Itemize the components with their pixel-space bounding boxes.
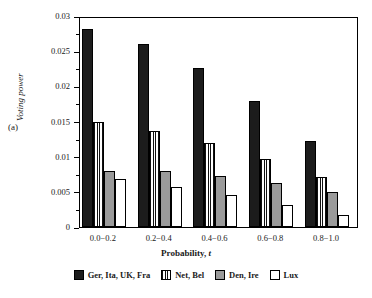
bar-gray: [271, 183, 282, 227]
x-axis-tick-label: 0.6−0.8: [240, 233, 300, 243]
x-axis-tick-label: 0.4−0.6: [185, 233, 245, 243]
y-axis-tick-label: 0.025: [0, 46, 70, 56]
legend-item: Net, Bel: [161, 270, 204, 280]
bar-striped: [93, 122, 104, 228]
legend-swatch-black: [74, 270, 84, 280]
bar-gray: [160, 171, 171, 227]
y-axis-tick-label: 0.005: [0, 187, 70, 197]
bar-striped: [149, 131, 160, 227]
legend-label: Lux: [284, 270, 299, 280]
y-axis-tick-mark: [74, 228, 79, 229]
bar-white: [171, 187, 182, 227]
bar-striped: [204, 143, 215, 227]
x-axis-tick-label: 0.0−0.2: [73, 233, 133, 243]
x-axis-tick-label: 0.8−1.0: [296, 233, 356, 243]
figure-panel-a: (a) Voting power 00.0050.010.0150.020.02…: [0, 0, 372, 298]
bar-black: [82, 29, 93, 227]
y-axis-minor-tick: [76, 34, 79, 35]
legend-item: Lux: [270, 270, 299, 280]
y-axis-tick-mark: [74, 52, 79, 53]
y-axis-tick-label: 0.03: [0, 11, 70, 21]
legend-label: Net, Bel: [175, 270, 204, 280]
plot-area: [79, 17, 358, 228]
legend-item: Ger, Ita, UK, Fra: [74, 270, 150, 280]
x-axis-title-symbol: t: [208, 248, 211, 258]
y-axis-minor-tick: [76, 104, 79, 105]
bar-black: [138, 44, 149, 227]
legend-label: Ger, Ita, UK, Fra: [88, 270, 150, 280]
bar-white: [226, 195, 237, 227]
bar-group: [192, 18, 248, 227]
y-axis-tick-mark: [74, 87, 79, 88]
y-axis-tick-label: 0.01: [0, 152, 70, 162]
bar-striped: [260, 159, 271, 227]
bar-black: [305, 141, 316, 227]
bar-white: [115, 179, 126, 227]
bar-black: [249, 101, 260, 227]
bar-group: [80, 18, 136, 227]
y-axis-tick-mark: [74, 17, 79, 18]
bar-black: [193, 68, 204, 227]
legend-item: Den, Ire: [215, 270, 259, 280]
legend-swatch-gray: [215, 270, 225, 280]
y-axis-tick-mark: [74, 192, 79, 193]
bar-white: [338, 215, 349, 227]
x-axis-tick-label: 0.2−0.4: [129, 233, 189, 243]
y-axis-minor-tick: [76, 69, 79, 70]
y-axis-tick-label: 0.015: [0, 117, 70, 127]
x-axis-title-text: Probability,: [161, 248, 208, 258]
chart-legend: Ger, Ita, UK, FraNet, BelDen, IreLux: [0, 270, 372, 280]
bar-group: [247, 18, 303, 227]
y-axis-minor-tick: [76, 175, 79, 176]
x-axis-title: Probability, t: [0, 248, 372, 258]
bar-group: [136, 18, 192, 227]
bar-gray: [104, 171, 115, 227]
plot-inner: [80, 18, 357, 227]
bar-gray: [215, 176, 226, 227]
y-axis-tick-mark: [74, 122, 79, 123]
y-axis-minor-tick: [76, 210, 79, 211]
bar-gray: [327, 192, 338, 227]
legend-swatch-white: [270, 270, 280, 280]
bar-group: [303, 18, 359, 227]
y-axis-tick-label: 0: [0, 222, 70, 232]
y-axis-minor-tick: [76, 140, 79, 141]
legend-label: Den, Ire: [229, 270, 259, 280]
y-axis-tick-mark: [74, 157, 79, 158]
legend-swatch-striped: [161, 270, 171, 280]
bar-white: [282, 205, 293, 228]
y-axis-tick-label: 0.02: [0, 81, 70, 91]
bar-striped: [316, 177, 327, 227]
